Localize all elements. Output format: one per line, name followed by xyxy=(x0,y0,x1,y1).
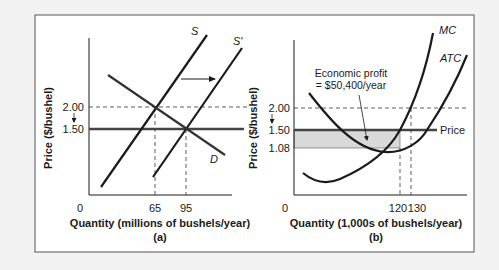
economic-profit-value: = $50,400/year xyxy=(316,79,387,91)
panel-a-ytick-2-00: 2.00 xyxy=(63,101,84,113)
panel-a-label: (a) xyxy=(153,231,167,243)
panel-b-xtick-0: 0 xyxy=(282,202,288,214)
panel-b-x-axis-title: Quantity (1,000s of bushels/year) xyxy=(290,217,463,229)
economic-profit-region xyxy=(294,130,400,148)
panel-b-label-mc: MC xyxy=(439,24,456,36)
panel-b-xtick-130: 130 xyxy=(408,202,426,214)
panel-b-label: (b) xyxy=(369,231,383,243)
panel-a-xtick-0: 0 xyxy=(77,202,83,214)
figure: Price ($/bushel) S S' D 2.00 1.50 0 65 9… xyxy=(0,0,499,270)
panel-a-x-axis-title: Quantity (millions of bushels/year) xyxy=(70,217,251,229)
panel-b-label-atc: ATC xyxy=(439,52,461,64)
panel-a-ytick-1-50: 1.50 xyxy=(63,123,84,135)
panel-b-y-axis-title: Price ($/bushel) xyxy=(247,87,259,169)
panel-a-y-axis-title: Price ($/bushel) xyxy=(42,87,54,169)
panel-a-xtick-95: 95 xyxy=(180,202,192,214)
panel-a-xtick-65: 65 xyxy=(149,202,161,214)
panel-a-label-s-prime: S' xyxy=(233,35,243,47)
panel-b-xtick-120: 120 xyxy=(389,202,407,214)
panel-a-label-s: S xyxy=(191,25,199,37)
panel-b-ytick-1-08: 1.08 xyxy=(269,142,290,154)
panel-b-label-price: Price xyxy=(440,124,465,136)
economic-profit-label: Economic profit xyxy=(315,67,387,79)
panel-b-ytick-1-50: 1.50 xyxy=(269,124,290,136)
panel-a-label-d: D xyxy=(210,153,218,165)
panel-b-ytick-2-00: 2.00 xyxy=(269,102,290,114)
